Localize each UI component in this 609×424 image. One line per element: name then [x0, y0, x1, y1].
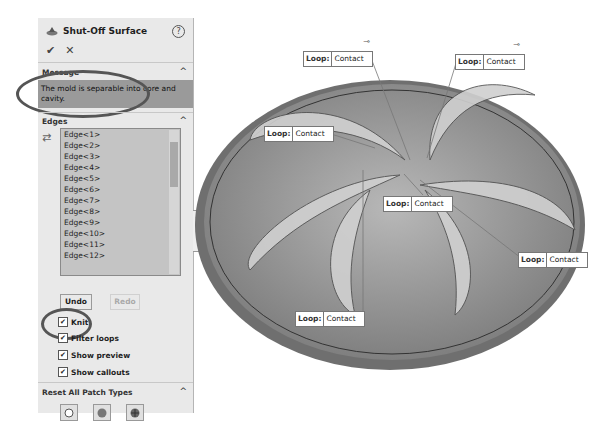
checkmark-icon: ✔ — [58, 367, 68, 377]
list-item[interactable]: Edge<6> — [61, 184, 180, 195]
loop-callout[interactable]: Loop:Contact — [455, 54, 525, 70]
contact-patch-button[interactable] — [93, 404, 111, 421]
list-item[interactable]: Edge<5> — [61, 173, 180, 184]
checkmark-icon: ✔ — [58, 333, 68, 343]
ok-button[interactable]: ✔ — [46, 44, 55, 57]
contact-icon — [97, 408, 107, 418]
list-item[interactable]: Edge<11> — [61, 239, 180, 250]
list-item[interactable]: Edge<7> — [61, 195, 180, 206]
list-item[interactable]: Edge<1> — [61, 129, 180, 140]
list-item[interactable]: Edge<2> — [61, 140, 180, 151]
divider — [38, 382, 193, 383]
no-fill-patch-button[interactable] — [60, 404, 78, 421]
shut-off-surface-icon — [46, 26, 58, 36]
checkmark-icon: ✔ — [58, 350, 68, 360]
chevron-up-icon[interactable]: ^ — [179, 66, 187, 76]
loop-callout[interactable]: Loop:Contact — [383, 196, 453, 212]
divider — [38, 62, 193, 63]
loop-callout[interactable]: Loop:Contact — [518, 252, 588, 268]
property-manager: Shut-Off Surface ? ✔ ✕ Message ^ The mol… — [38, 18, 194, 413]
filter-loops-checkbox[interactable]: ✔Filter loops — [58, 333, 119, 343]
reset-section-title: Reset All Patch Types — [42, 388, 133, 397]
chevron-up-icon[interactable]: ^ — [179, 386, 187, 396]
graphics-area[interactable]: Loop:Contact Loop:Contact Loop:Contact L… — [195, 0, 609, 420]
list-item[interactable]: Edge<3> — [61, 151, 180, 162]
list-item[interactable]: Edge<9> — [61, 217, 180, 228]
edges-section-title: Edges — [42, 117, 67, 126]
panel-title: Shut-Off Surface — [63, 26, 147, 36]
list-item[interactable]: Edge<4> — [61, 162, 180, 173]
tangent-patch-button[interactable] — [126, 404, 144, 421]
redo-button[interactable]: Redo — [110, 294, 140, 310]
loop-callout[interactable]: Loop:Contact — [303, 51, 373, 67]
pin-icon[interactable]: ⊸ — [513, 40, 520, 49]
divider — [38, 112, 193, 113]
scrollbar-thumb[interactable] — [170, 142, 178, 187]
scrollbar[interactable] — [169, 130, 179, 274]
show-callouts-checkbox[interactable]: ✔Show callouts — [58, 367, 130, 377]
loop-callout[interactable]: Loop:Contact — [264, 126, 334, 142]
list-item[interactable]: Edge<10> — [61, 228, 180, 239]
chevron-up-icon[interactable]: ^ — [179, 115, 187, 125]
panel-header: Shut-Off Surface — [46, 26, 147, 36]
pin-icon[interactable]: ⊸ — [363, 37, 370, 46]
no-fill-icon — [64, 408, 74, 418]
help-icon[interactable]: ? — [172, 25, 185, 38]
list-item[interactable]: Edge<8> — [61, 206, 180, 217]
loop-callout[interactable]: Loop:Contact — [295, 311, 365, 327]
cancel-button[interactable]: ✕ — [65, 44, 74, 57]
list-item[interactable]: Edge<12> — [61, 250, 180, 261]
show-preview-checkbox[interactable]: ✔Show preview — [58, 350, 130, 360]
edges-selection-icon: ⇄ — [42, 131, 51, 144]
edges-listbox[interactable]: Edge<1> Edge<2> Edge<3> Edge<4> Edge<5> … — [60, 128, 181, 276]
annotation-oval — [16, 70, 150, 118]
tangent-icon — [130, 408, 140, 418]
